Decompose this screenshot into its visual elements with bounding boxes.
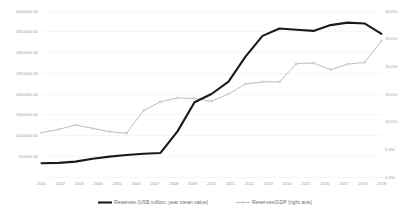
x-axis-tick-label: 2006 — [131, 181, 141, 186]
legend-label-reserves: Reserves (US$ million, year mean value) — [114, 199, 209, 205]
series-line-reserves — [42, 23, 382, 164]
data-point-marker — [194, 97, 196, 99]
data-point-marker — [58, 128, 60, 130]
series-markers-reserves-gdp — [41, 40, 383, 134]
x-axis-tick-label: 2014 — [283, 181, 293, 186]
y-axis-right-tick-label: 0.0% — [385, 175, 395, 180]
legend-marker-dot-reserves-gdp — [242, 201, 244, 203]
x-axis-tick-label: 2003 — [75, 181, 85, 186]
y-axis-left-tick-label: 400,000.00 — [16, 9, 39, 14]
x-axis-tick-label: 2007 — [150, 181, 160, 186]
y-axis-right-tick-label: 30.0% — [385, 9, 398, 14]
y-axis-right-tick-label: 15.0% — [385, 92, 398, 97]
series-line-reserves-gdp — [42, 41, 382, 133]
y-axis-left-tick-label: 100,000.00 — [16, 133, 39, 138]
data-point-marker — [126, 132, 128, 134]
chart-legend: Reserves (US$ million, year mean value) … — [98, 199, 312, 205]
data-point-marker — [211, 100, 213, 102]
x-axis-tick-label: 2015 — [301, 181, 311, 186]
x-axis-tick-label: 2016 — [320, 181, 330, 186]
y-axis-right-tick-label: 20.0% — [385, 64, 398, 69]
data-point-marker — [262, 81, 264, 83]
data-point-marker — [109, 131, 111, 133]
y-axis-right-tick-label: 5.0% — [385, 147, 395, 152]
x-axis-tick-label: 2008 — [169, 181, 179, 186]
y-axis-left-tick-label: 150,000.00 — [16, 112, 39, 117]
x-axis-tick-label: 2004 — [94, 181, 104, 186]
data-point-marker — [75, 124, 77, 126]
x-axis-tick-label: 2019 — [377, 181, 387, 186]
chart-container: 50,000.00100,000.00150,000.00200,000.002… — [0, 0, 418, 217]
x-axis-tick-label: 2001 — [37, 181, 47, 186]
data-point-marker — [330, 69, 332, 71]
data-point-marker — [364, 62, 366, 64]
data-point-marker — [245, 83, 247, 85]
y-axis-right-tick-label: 25.0% — [385, 36, 398, 41]
y-axis-right-labels: 0.0%5.0%10.0%15.0%20.0%25.0%30.0% — [385, 9, 398, 180]
data-point-marker — [41, 132, 43, 134]
x-axis-tick-label: 2012 — [245, 181, 255, 186]
x-axis-tick-label: 2010 — [207, 181, 217, 186]
data-point-marker — [381, 40, 383, 42]
y-axis-left-tick-label: 50,000.00 — [18, 154, 38, 159]
line-chart: 50,000.00100,000.00150,000.00200,000.002… — [0, 0, 418, 217]
y-axis-left-tick-label: 300,000.00 — [16, 50, 39, 55]
data-point-marker — [313, 62, 315, 64]
data-point-marker — [228, 93, 230, 95]
x-axis-tick-label: 2011 — [226, 181, 236, 186]
y-axis-left-labels: 50,000.00100,000.00150,000.00200,000.002… — [16, 9, 39, 159]
x-axis-tick-label: 2017 — [339, 181, 349, 186]
x-axis-tick-label: 2013 — [264, 181, 274, 186]
x-axis-labels: 2001200220032004200520062007200820092010… — [37, 181, 387, 186]
data-point-marker — [347, 63, 349, 65]
data-point-marker — [160, 101, 162, 103]
data-point-marker — [177, 97, 179, 99]
y-axis-left-tick-label: 250,000.00 — [16, 71, 39, 76]
x-axis-tick-label: 2009 — [188, 181, 198, 186]
y-axis-left-tick-label: 350,000.00 — [16, 29, 39, 34]
x-axis-tick-label: 2002 — [56, 181, 66, 186]
data-point-marker — [92, 127, 94, 129]
x-axis-tick-label: 2005 — [113, 181, 123, 186]
data-point-marker — [296, 63, 298, 65]
y-axis-right-tick-label: 10.0% — [385, 119, 398, 124]
x-axis-tick-label: 2018 — [358, 181, 368, 186]
data-point-marker — [279, 81, 281, 83]
data-point-marker — [143, 110, 145, 112]
y-axis-left-tick-label: 200,000.00 — [16, 92, 39, 97]
legend-label-reserves-gdp: Reserves/GDP (right axis) — [252, 199, 312, 205]
